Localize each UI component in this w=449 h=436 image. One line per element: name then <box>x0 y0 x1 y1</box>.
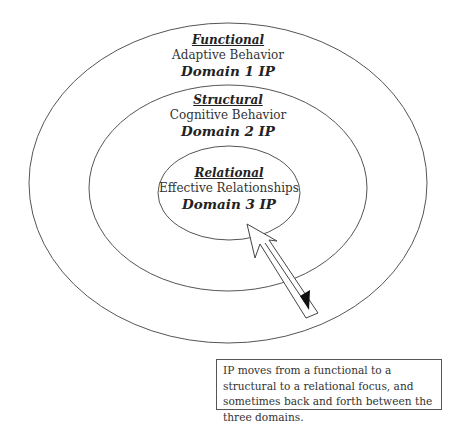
domain-functional: Functional Adaptive Behavior Domain 1 IP <box>172 33 284 80</box>
domain-title: Structural <box>170 93 286 108</box>
double-arrow-icon <box>247 224 318 318</box>
domain-title: Functional <box>172 33 284 48</box>
explanation-note: IP moves from a functional to a structur… <box>216 359 442 410</box>
domain-relational: Relational Effective Relationships Domai… <box>159 166 299 213</box>
domain-label: Domain 2 IP <box>170 123 286 140</box>
domain-structural: Structural Cognitive Behavior Domain 2 I… <box>170 93 286 140</box>
domain-label: Domain 1 IP <box>172 63 284 80</box>
domain-label: Domain 3 IP <box>159 196 299 213</box>
domain-description: Adaptive Behavior <box>172 48 284 63</box>
domain-title: Relational <box>159 166 299 181</box>
domain-description: Effective Relationships <box>159 181 299 196</box>
domain-description: Cognitive Behavior <box>170 108 286 123</box>
